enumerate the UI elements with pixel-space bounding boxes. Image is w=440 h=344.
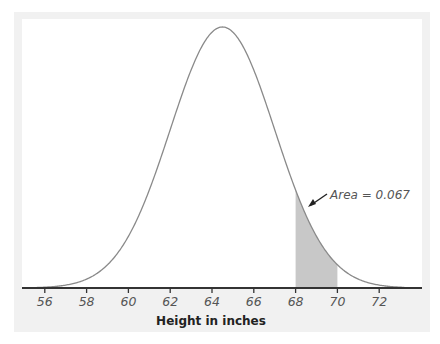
x-tick-label: 56: [37, 294, 53, 309]
density-curve: [34, 27, 404, 288]
x-tick-label: 72: [371, 294, 387, 309]
x-tick-label: 68: [288, 294, 304, 309]
x-tick-label: 58: [79, 294, 95, 309]
x-axis-label: Height in inches: [156, 314, 266, 328]
normal-curve-chart: 565860626466687072 Area = 0.067 Height i…: [0, 0, 440, 344]
arrow-head-icon: [308, 199, 316, 207]
x-tick-label: 66: [246, 294, 262, 309]
annotation-text: Area = 0.067: [329, 188, 410, 202]
x-ticks: 565860626466687072: [37, 288, 387, 309]
x-tick-label: 64: [204, 294, 220, 309]
x-tick-label: 70: [329, 294, 345, 309]
x-tick-label: 60: [120, 294, 136, 309]
area-annotation: Area = 0.067: [308, 188, 410, 207]
x-tick-label: 62: [162, 294, 178, 309]
